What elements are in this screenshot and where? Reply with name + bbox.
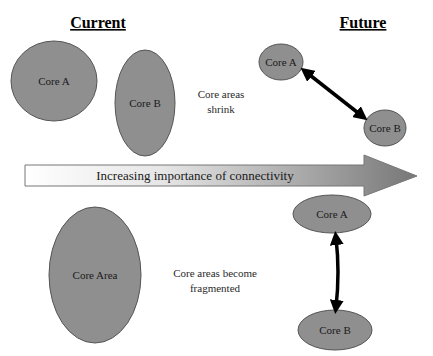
core-label: Core A [265,56,297,68]
core-label: Core Area [73,269,118,281]
shrink-note-line2: shrink [207,103,235,115]
future-header: Future [340,14,387,31]
fragmented-note-line2: fragmented [190,282,241,294]
top-future-core-a: Core A [259,44,303,80]
double-arrow-icon [306,72,362,116]
connectivity-label: Increasing importance of connectivity [96,168,294,183]
top-current-core-a: Core A [11,41,97,121]
current-header: Current [70,14,126,31]
core-label: Core A [316,208,348,220]
shrink-note-line1: Core areas [198,88,245,100]
fragmented-note-line1: Core areas become [173,267,257,279]
top-future-core-b: Core B [364,110,406,146]
top-current-core-b: Core B [115,50,175,156]
connectivity-diagram: Current Future Core A Core B Core areas … [0,0,433,356]
core-label: Core A [38,75,70,87]
bottom-current-core-area: Core Area [49,207,141,343]
bottom-future-core-b: Core B [298,310,372,350]
connectivity-arrow: Increasing importance of connectivity [25,155,417,196]
double-arrow-icon [336,238,338,307]
bottom-future-core-a: Core A [293,195,371,233]
core-label: Core B [369,122,400,134]
core-label: Core B [319,324,350,336]
core-label: Core B [129,97,160,109]
